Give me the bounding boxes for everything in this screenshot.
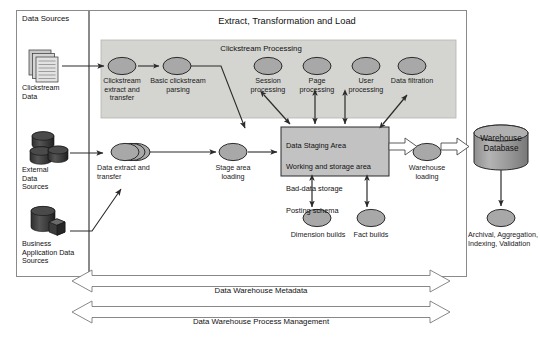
staging-line-2: Working and storage area <box>286 162 390 173</box>
node-data-filtration <box>398 57 426 74</box>
staging-line-3: Bad-data storage <box>286 184 390 195</box>
process-label-warehouse-loading: Warehouse loading <box>401 164 453 181</box>
process-label-user-processing: User processing <box>341 77 391 94</box>
block-arrow-warehouse-loading-to-database <box>441 138 469 155</box>
staging-line-1: Data Staging Area <box>286 141 390 152</box>
node-page-processing <box>303 57 331 74</box>
process-label-data-extract-and-transfer: Data extract and transfer <box>97 164 169 181</box>
process-label-dimension-builds: Dimension builds <box>290 231 346 240</box>
process-label-data-filtration: Data filtration <box>388 77 436 86</box>
banner-label-data-warehouse-process-management: Data Warehouse Process Management <box>92 318 430 327</box>
staging-line-4: Posting schema <box>286 206 390 217</box>
node-user-processing <box>352 57 380 74</box>
process-label-fact-builds: Fact builds <box>345 231 397 240</box>
banner-arrows <box>72 270 450 323</box>
source-label-clickstream-data: Clickstream Data <box>22 84 92 101</box>
process-label-clickstream-extract-and-transfer: Clickstream extract and transfer <box>97 77 147 103</box>
data-sources-panel-label: Data Sources <box>22 15 88 24</box>
node-clickstream-extract-and-transfer <box>108 57 136 74</box>
node-warehouse-loading <box>413 143 441 160</box>
process-label-stage-area-loading: Stage area loading <box>206 164 260 181</box>
data-staging-area-text: Data Staging Area Working and storage ar… <box>286 130 390 227</box>
process-label-archival-aggregation-indexing-validation: Archival, Aggregation, Indexing, Validat… <box>468 231 538 248</box>
document-stack-icon <box>29 50 58 82</box>
database-cube-icon <box>31 206 65 235</box>
source-label-business-application-data-sources: Business Application Data Sources <box>22 240 102 266</box>
arrow-business-to-extract <box>70 189 121 231</box>
node-session-processing <box>254 57 282 74</box>
etl-architecture-diagram: Extract, Transformation and Load Data So… <box>0 0 540 347</box>
clickstream-processing-label: Clickstream Processing <box>196 45 326 54</box>
database-cluster-icon <box>30 132 68 165</box>
node-stage-area-loading <box>219 143 247 160</box>
page-title: Extract, Transformation and Load <box>192 16 382 26</box>
node-data-extract-and-transfer <box>111 143 139 160</box>
node-archival-aggregation-indexing-validation <box>487 209 515 226</box>
process-label-basic-clickstream-parsing: Basic clickstream parsing <box>147 77 209 94</box>
process-label-session-processing: Session processing <box>243 77 293 94</box>
warehouse-database-label: Warehouse Database <box>471 134 531 154</box>
banner-label-data-warehouse-metadata: Data Warehouse Metadata <box>92 287 430 296</box>
source-label-external-data-sources: External Data Sources <box>22 166 92 192</box>
node-basic-clickstream-parsing <box>163 57 191 74</box>
process-label-page-processing: Page processing <box>292 77 342 94</box>
